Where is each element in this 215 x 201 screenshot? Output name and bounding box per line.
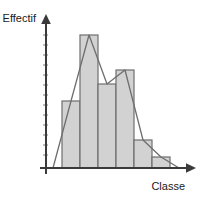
y-axis-label: Effectif	[3, 12, 37, 24]
bar-6	[152, 157, 170, 168]
histogram-chart: Effectif Classe	[0, 0, 215, 201]
x-axis-label: Classe	[151, 180, 185, 192]
bar-5	[134, 140, 152, 168]
bar-4	[116, 70, 134, 168]
bar-3	[98, 84, 116, 168]
bar-2	[80, 35, 98, 168]
bar-1	[62, 101, 80, 168]
